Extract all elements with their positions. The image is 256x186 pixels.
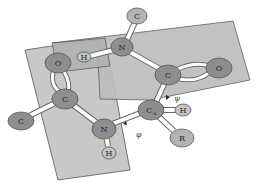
atom-o-left: O [45,53,71,73]
atom-n-top: N [111,38,133,56]
atom-label: O [216,64,223,73]
atom-label: C [62,95,68,104]
atom-label: C [165,71,171,80]
atom-h-top: H [77,52,91,62]
atom-c-alpha: C α [138,100,164,120]
atom-c-carbonyl-left: C [52,89,78,109]
atom-label: C [146,106,152,115]
atom-h-right: H [175,104,191,116]
psi-angle-label: ψ [174,94,181,103]
atom-label: O [55,59,62,68]
atom-n-bottom: N [92,119,116,139]
atom-r-group: R [170,129,194,147]
atom-label: C [18,117,24,126]
atom-h-bottom: H [102,147,116,159]
atom-c-carbonyl-right: C [155,65,181,85]
atom-label: R [179,134,186,143]
atom-label: N [119,43,126,52]
atom-label: N [101,125,108,134]
atom-c-top: C [127,8,147,24]
atom-label: C [134,12,140,21]
atom-label: H [180,106,187,115]
atom-c-far-left: C [8,112,34,130]
atom-o-right: O [206,58,232,78]
atom-label: H [81,53,88,62]
phi-angle-label: φ [136,130,142,139]
atom-label: H [106,149,113,158]
peptide-diagram: C N H O C C N H C O C α H [0,0,256,186]
